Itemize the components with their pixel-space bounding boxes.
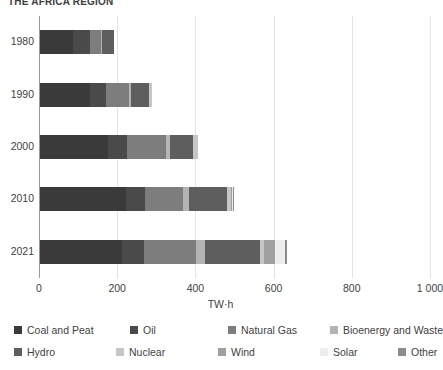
legend-swatch-icon — [330, 326, 338, 334]
legend-item[interactable]: Hydro — [14, 346, 55, 358]
x-axis-tick-label: 600 — [265, 282, 283, 294]
legend-label: Other — [411, 346, 437, 358]
legend-row-2: HydroNuclearWindSolarOther — [0, 344, 441, 366]
bar-row — [39, 187, 430, 211]
bar-segment — [90, 83, 106, 107]
bar-segment — [131, 83, 149, 107]
bar-segment — [73, 30, 89, 54]
legend-item[interactable]: Solar — [320, 346, 358, 358]
bar-segment — [193, 135, 198, 159]
y-axis-line — [39, 16, 40, 278]
y-axis-label: 2021 — [0, 245, 34, 257]
y-axis-category-labels: 19801990200020102021 — [0, 16, 34, 278]
x-axis-title: TW·h — [0, 298, 441, 310]
legend-swatch-icon — [320, 348, 328, 356]
x-axis-tick-label: 0 — [36, 282, 42, 294]
bar-segment — [126, 187, 145, 211]
x-axis-tick-label: 200 — [108, 282, 126, 294]
bar-segment — [90, 30, 101, 54]
bar-segment — [39, 240, 122, 264]
y-axis-label: 2010 — [0, 192, 34, 204]
plot-area — [39, 16, 430, 278]
bar-segment — [106, 83, 129, 107]
legend-item[interactable]: Other — [398, 346, 437, 358]
bar-segment — [39, 30, 73, 54]
bar-segment — [285, 240, 287, 264]
bar-segment — [39, 83, 90, 107]
legend-label: Natural Gas — [241, 324, 297, 336]
legend-item[interactable]: Nuclear — [116, 346, 165, 358]
legend-label: Wind — [231, 346, 255, 358]
bar-row — [39, 30, 430, 54]
bar-segment — [196, 240, 205, 264]
legend-swatch-icon — [14, 326, 22, 334]
chart-title: THE AFRICA REGION — [8, 0, 113, 7]
bar-row — [39, 240, 430, 264]
bar-segment — [108, 135, 127, 159]
bar-segment — [144, 240, 196, 264]
bar-row — [39, 135, 430, 159]
legend-swatch-icon — [116, 348, 124, 356]
x-axis-tick-labels: 02004006008001 000 — [0, 282, 441, 298]
bar-segment — [264, 240, 275, 264]
bar-segment — [149, 83, 152, 107]
bar-segment — [233, 187, 234, 211]
bar-segment — [39, 135, 108, 159]
legend-label: Oil — [143, 324, 156, 336]
legend-item[interactable]: Coal and Peat — [14, 324, 94, 336]
y-axis-label: 1980 — [0, 35, 34, 47]
x-axis-tick-label: 1 000 — [417, 282, 443, 294]
x-axis-tick-label: 800 — [343, 282, 361, 294]
legend-swatch-icon — [228, 326, 236, 334]
x-axis-tick-label: 400 — [187, 282, 205, 294]
bar-segment — [189, 187, 227, 211]
bar-row — [39, 83, 430, 107]
legend-swatch-icon — [218, 348, 226, 356]
bar-segment — [170, 135, 193, 159]
bar-segment — [122, 240, 144, 264]
bar-segment — [39, 187, 126, 211]
y-axis-label: 1990 — [0, 88, 34, 100]
legend-label: Solar — [333, 346, 358, 358]
bar-segment — [145, 187, 183, 211]
legend-label: Bioenergy and Waste — [343, 324, 443, 336]
gridline — [430, 16, 431, 278]
legend-swatch-icon — [130, 326, 138, 334]
bar-segment — [102, 30, 114, 54]
chart-legend: Coal and PeatOilNatural GasBioenergy and… — [0, 322, 441, 366]
legend-item[interactable]: Bioenergy and Waste — [330, 324, 443, 336]
legend-swatch-icon — [14, 348, 22, 356]
bar-segment — [127, 135, 166, 159]
y-axis-label: 2000 — [0, 140, 34, 152]
legend-swatch-icon — [398, 348, 406, 356]
legend-row-1: Coal and PeatOilNatural GasBioenergy and… — [0, 322, 441, 344]
legend-label: Coal and Peat — [27, 324, 94, 336]
legend-item[interactable]: Oil — [130, 324, 156, 336]
legend-item[interactable]: Natural Gas — [228, 324, 297, 336]
legend-label: Hydro — [27, 346, 55, 358]
bar-segment — [275, 240, 284, 264]
legend-label: Nuclear — [129, 346, 165, 358]
bar-segment — [205, 240, 260, 264]
legend-item[interactable]: Wind — [218, 346, 255, 358]
